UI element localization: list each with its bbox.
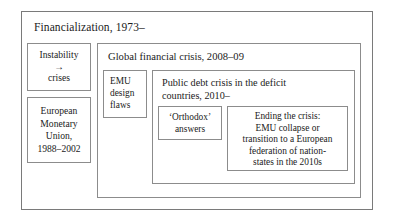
instability-line-2: crises <box>28 72 90 85</box>
emu-flaws-line-3: flaws <box>110 99 146 111</box>
ending-line-4: federation of nation- <box>228 146 347 158</box>
orthodox-line-1: ‘Orthodox’ <box>159 111 221 123</box>
emu-union-line-1: European <box>28 105 90 118</box>
ending-line-3: transition to a European <box>228 134 347 146</box>
right-arrow-icon: → <box>28 62 90 72</box>
orthodox-line-2: answers <box>159 123 221 135</box>
emu-flaws-line-1: EMU <box>110 75 146 87</box>
box-european-monetary-union: European Monetary Union, 1988–2002 <box>27 97 91 163</box>
label-global-financial-crisis: Global financial crisis, 2008–09 <box>108 51 244 62</box>
diagram-root: Financialization, 1973– Instability → cr… <box>0 0 394 221</box>
box-ending-the-crisis: Ending the crisis: EMU collapse or trans… <box>227 106 348 171</box>
instability-line-1: Instability <box>28 49 90 62</box>
emu-flaws-line-2: design <box>110 87 146 99</box>
box-emu-design-flaws: EMU design flaws <box>103 70 147 118</box>
label-financialization: Financialization, 1973– <box>34 21 145 33</box>
box-instability-crises: Instability → crises <box>27 43 91 91</box>
box-orthodox-answers: ‘Orthodox’ answers <box>158 106 222 140</box>
emu-union-line-2: Monetary <box>28 118 90 131</box>
label-public-debt-crisis: Public debt crisis in the deficit countr… <box>162 76 312 102</box>
emu-union-line-3: Union, <box>28 130 90 143</box>
ending-line-2: EMU collapse or <box>228 123 347 135</box>
emu-union-line-4: 1988–2002 <box>28 143 90 156</box>
ending-line-5: states in the 2010s <box>228 157 347 169</box>
ending-line-1: Ending the crisis: <box>228 111 347 123</box>
